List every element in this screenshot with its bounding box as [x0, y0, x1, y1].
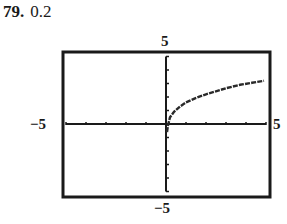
y-min-label: −5: [154, 201, 170, 216]
x-min-label: −5: [30, 117, 46, 132]
axes: [66, 57, 266, 192]
x-max-label: 5: [273, 117, 281, 132]
y-max-label: 5: [161, 34, 169, 49]
graph-window: [0, 0, 287, 224]
